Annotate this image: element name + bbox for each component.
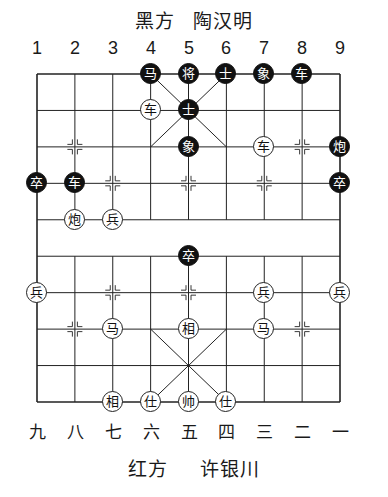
column-label: 一: [328, 418, 352, 443]
column-label: 四: [214, 418, 238, 443]
red-side-label: 红方: [128, 458, 168, 480]
column-label: 七: [101, 418, 125, 443]
red-piece-车[interactable]: 车: [140, 99, 161, 120]
red-piece-相[interactable]: 相: [178, 318, 199, 339]
black-piece-马[interactable]: 马: [140, 63, 161, 84]
black-piece-士[interactable]: 士: [178, 99, 199, 120]
column-label: 八: [63, 418, 87, 443]
black-piece-将[interactable]: 将: [178, 63, 199, 84]
black-piece-卒[interactable]: 卒: [178, 245, 199, 266]
red-piece-兵[interactable]: 兵: [102, 209, 123, 230]
column-label: 六: [139, 418, 163, 443]
black-piece-象[interactable]: 象: [178, 136, 199, 157]
column-label: 九: [25, 418, 49, 443]
black-piece-炮[interactable]: 炮: [329, 136, 350, 157]
red-piece-兵[interactable]: 兵: [26, 282, 47, 303]
red-piece-仕[interactable]: 仕: [140, 391, 161, 412]
red-piece-兵[interactable]: 兵: [329, 282, 350, 303]
red-player-title: 红方许银川: [0, 454, 388, 481]
red-piece-车[interactable]: 车: [253, 136, 274, 157]
column-label: 三: [252, 418, 276, 443]
column-label: 二: [290, 418, 314, 443]
red-piece-马[interactable]: 马: [102, 318, 123, 339]
red-piece-帅[interactable]: 帅: [178, 391, 199, 412]
red-player-name: 许银川: [200, 458, 260, 480]
red-piece-相[interactable]: 相: [102, 391, 123, 412]
column-label: 五: [177, 418, 201, 443]
red-piece-兵[interactable]: 兵: [253, 282, 274, 303]
red-piece-炮[interactable]: 炮: [64, 209, 85, 230]
black-piece-车[interactable]: 车: [291, 63, 312, 84]
